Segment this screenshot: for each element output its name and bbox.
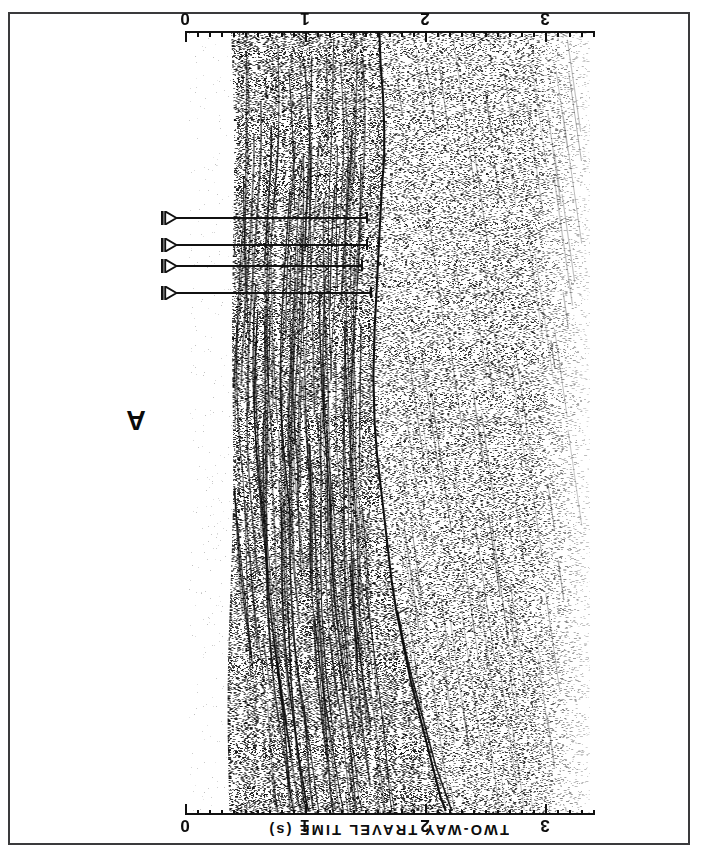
annotation-arrow-head bbox=[161, 211, 177, 225]
axis-tick-minor bbox=[245, 810, 247, 816]
annotation-arrow-tip-bar bbox=[361, 260, 363, 271]
annotation-arrow-shaft bbox=[175, 265, 362, 267]
annotation-arrow bbox=[161, 238, 369, 252]
axis-tick-minor bbox=[533, 810, 535, 816]
axis-tick-minor bbox=[461, 31, 463, 37]
seismic-data-area bbox=[185, 33, 590, 813]
annotation-arrow-shaft bbox=[175, 217, 367, 219]
axis-tick-minor bbox=[257, 810, 259, 816]
axis-tick-minor bbox=[341, 31, 343, 37]
axis-tick-minor bbox=[437, 31, 439, 37]
axis-tick-label: 3 bbox=[534, 816, 556, 834]
axis-tick-minor bbox=[377, 31, 379, 37]
axis-tick-label: 1 bbox=[294, 816, 316, 834]
axis-tick-minor bbox=[485, 810, 487, 816]
axis-tick-minor bbox=[329, 810, 331, 816]
axis-tick-major bbox=[305, 31, 307, 42]
axis-tick-minor bbox=[557, 31, 559, 37]
axis-tick-minor bbox=[533, 31, 535, 37]
annotation-arrow-shaft bbox=[175, 244, 367, 246]
axis-tick-minor bbox=[581, 810, 583, 816]
axis-tick-label: 2 bbox=[414, 9, 436, 27]
panel-letter: A bbox=[120, 404, 152, 436]
axis-tick-minor bbox=[473, 810, 475, 816]
axis-tick-label: 3 bbox=[534, 9, 556, 27]
axis-tick-major bbox=[545, 31, 547, 42]
axis-tick-minor bbox=[401, 810, 403, 816]
seismic-wiggle-trace-canvas bbox=[185, 33, 590, 813]
annotation-arrow bbox=[161, 286, 373, 300]
axis-tick-minor bbox=[353, 31, 355, 37]
axis-tick-minor bbox=[341, 810, 343, 816]
axis-tick-minor bbox=[221, 31, 223, 37]
axis-tick-minor bbox=[413, 31, 415, 37]
axis-tick-minor bbox=[593, 31, 595, 37]
axis-tick-minor bbox=[197, 31, 199, 37]
seismic-figure: TWO-WAY TRAVEL TIME (s) A 01230123 bbox=[0, 0, 706, 858]
axis-tick-label: 2 bbox=[414, 816, 436, 834]
axis-tick-minor bbox=[353, 810, 355, 816]
axis-tick-minor bbox=[317, 810, 319, 816]
axis-tick-minor bbox=[209, 810, 211, 816]
axis-tick-minor bbox=[269, 810, 271, 816]
axis-tick-minor bbox=[521, 31, 523, 37]
axis-tick-minor bbox=[569, 31, 571, 37]
annotation-arrow bbox=[161, 211, 369, 225]
axis-tick-minor bbox=[449, 31, 451, 37]
axis-tick-minor bbox=[329, 31, 331, 37]
axis-tick-major bbox=[305, 804, 307, 815]
axis-tick-minor bbox=[497, 810, 499, 816]
axis-tick-minor bbox=[197, 810, 199, 816]
axis-tick-minor bbox=[581, 31, 583, 37]
axis-tick-minor bbox=[221, 810, 223, 816]
axis-tick-minor bbox=[365, 810, 367, 816]
annotation-arrow-head bbox=[161, 259, 177, 273]
annotation-arrow-head bbox=[161, 238, 177, 252]
axis-tick-minor bbox=[293, 810, 295, 816]
axis-tick-minor bbox=[233, 31, 235, 37]
seismic-panel: TWO-WAY TRAVEL TIME (s) A 01230123 bbox=[0, 0, 706, 858]
axis-tick-label: 0 bbox=[174, 816, 196, 834]
annotation-arrow-tip-bar bbox=[370, 287, 372, 298]
annotation-arrow-shaft bbox=[175, 292, 371, 294]
axis-tick-minor bbox=[509, 810, 511, 816]
axis-tick-minor bbox=[293, 31, 295, 37]
axis-tick-minor bbox=[593, 810, 595, 816]
axis-tick-minor bbox=[233, 810, 235, 816]
annotation-arrow-tip-bar bbox=[366, 239, 368, 250]
axis-tick-minor bbox=[449, 810, 451, 816]
axis-tick-label: 0 bbox=[174, 9, 196, 27]
axis-tick-minor bbox=[521, 810, 523, 816]
axis-tick-minor bbox=[461, 810, 463, 816]
axis-tick-minor bbox=[401, 31, 403, 37]
axis-tick-minor bbox=[365, 31, 367, 37]
axis-tick-minor bbox=[245, 31, 247, 37]
axis-tick-minor bbox=[485, 31, 487, 37]
axis-tick-minor bbox=[377, 810, 379, 816]
axis-tick-major bbox=[425, 31, 427, 42]
axis-tick-minor bbox=[413, 810, 415, 816]
axis-tick-minor bbox=[281, 31, 283, 37]
axis-tick-minor bbox=[389, 810, 391, 816]
axis-tick-label: 1 bbox=[294, 9, 316, 27]
axis-tick-minor bbox=[281, 810, 283, 816]
axis-tick-minor bbox=[497, 31, 499, 37]
axis-tick-major bbox=[185, 804, 187, 815]
annotation-arrow-tip-bar bbox=[366, 212, 368, 223]
axis-tick-minor bbox=[437, 810, 439, 816]
annotation-arrow-head bbox=[161, 286, 177, 300]
annotation-arrow bbox=[161, 259, 364, 273]
axis-tick-minor bbox=[209, 31, 211, 37]
axis-title: TWO-WAY TRAVEL TIME (s) bbox=[208, 822, 568, 838]
axis-tick-minor bbox=[557, 810, 559, 816]
axis-tick-minor bbox=[269, 31, 271, 37]
axis-tick-minor bbox=[473, 31, 475, 37]
axis-tick-minor bbox=[257, 31, 259, 37]
axis-tick-minor bbox=[317, 31, 319, 37]
axis-tick-major bbox=[545, 804, 547, 815]
axis-tick-minor bbox=[509, 31, 511, 37]
axis-tick-minor bbox=[389, 31, 391, 37]
axis-tick-major bbox=[425, 804, 427, 815]
axis-tick-minor bbox=[569, 810, 571, 816]
axis-tick-major bbox=[185, 31, 187, 42]
